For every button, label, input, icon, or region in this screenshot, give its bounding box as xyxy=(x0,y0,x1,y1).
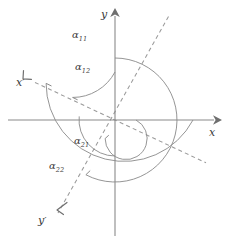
geometry-figure: x y x′ y′ α11 α12 α21 xyxy=(0,0,231,242)
y-axis-arrow-icon xyxy=(110,8,120,17)
y-prime-axis-label: y′ xyxy=(37,214,47,227)
y-prime-mark: ′ xyxy=(44,215,47,226)
y-axis-label: y xyxy=(100,8,108,21)
y-prime-axis-group xyxy=(57,17,169,215)
y-prime-axis-line xyxy=(58,17,169,214)
alpha-22-label: α22 xyxy=(49,160,64,174)
svg-text:α12: α12 xyxy=(75,61,90,75)
svg-text:y′: y′ xyxy=(37,214,47,227)
alpha-21-arc-outer xyxy=(79,116,115,156)
alpha-12-subscript: 12 xyxy=(82,67,90,75)
x-prime-axis-label: x′ xyxy=(16,76,25,89)
x-prime-axis-line xyxy=(35,82,206,162)
svg-text:α22: α22 xyxy=(49,160,64,174)
alpha-21-label: α21 xyxy=(74,135,89,149)
alpha-22-arc-tick xyxy=(86,171,90,175)
alpha-21-arc xyxy=(105,120,147,160)
alpha-11-label: α11 xyxy=(72,29,87,43)
alpha-12-arc xyxy=(73,72,115,97)
alpha-21-subscript: 21 xyxy=(80,141,89,149)
x-axis-label: x xyxy=(209,126,216,139)
alpha-11-subscript: 11 xyxy=(79,35,87,43)
figure-canvas: x y x′ y′ α11 α12 α21 xyxy=(0,0,231,242)
alpha-11-arc-tick xyxy=(46,83,51,86)
svg-text:α11: α11 xyxy=(72,29,87,43)
svg-text:α21: α21 xyxy=(74,135,89,149)
y-axis-group xyxy=(110,8,120,236)
alpha-11-arc xyxy=(46,83,193,161)
alpha-22-subscript: 22 xyxy=(55,166,64,174)
svg-text:x′: x′ xyxy=(16,76,25,89)
alpha-21-arc-tick xyxy=(105,135,109,138)
alpha-12-label: α12 xyxy=(75,61,90,75)
x-axis-arrow-icon xyxy=(213,115,222,125)
